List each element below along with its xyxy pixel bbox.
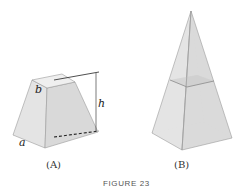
caption-b: (B): [174, 159, 189, 170]
label-h: h: [98, 97, 105, 110]
pyramid-b: (B): [152, 11, 232, 170]
caption-a: (A): [46, 159, 61, 170]
figure-title: FIGURE 23: [103, 179, 150, 188]
figure-canvas: b h a (A) (B) FIGURE 23: [0, 0, 246, 194]
label-a: a: [19, 136, 26, 149]
frustum-front-face: [45, 82, 98, 148]
label-b: b: [35, 83, 42, 96]
frustum-a: b h a (A): [13, 72, 105, 170]
